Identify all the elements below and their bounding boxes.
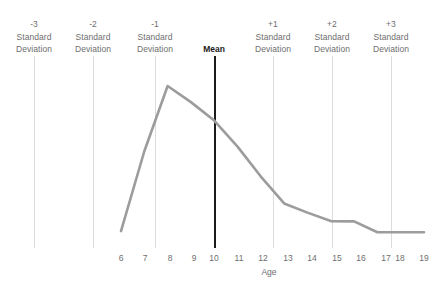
distribution-curve	[0, 0, 442, 296]
xtick-19: 19	[412, 253, 436, 263]
xtick-12: 12	[251, 253, 275, 263]
xtick-8-text: 8	[168, 253, 173, 263]
x-axis-title: Age	[209, 267, 329, 277]
xtick-7-text: 7	[143, 253, 148, 263]
xtick-14-text: 14	[307, 253, 316, 263]
xtick-9-text: 9	[192, 253, 197, 263]
xtick-13: 13	[276, 253, 300, 263]
chart-container: -3 Standard Deviation -2 Standard Deviat…	[0, 0, 442, 296]
xtick-19-text: 19	[419, 253, 428, 263]
xtick-6: 6	[109, 253, 133, 263]
xtick-10: 10	[202, 253, 226, 263]
xtick-16: 16	[349, 253, 373, 263]
xtick-15-text: 15	[332, 253, 341, 263]
xtick-11: 11	[227, 253, 251, 263]
xtick-8: 8	[158, 253, 182, 263]
xtick-13-text: 13	[283, 253, 292, 263]
xtick-16-text: 16	[356, 253, 365, 263]
xtick-15: 15	[325, 253, 349, 263]
xtick-14: 14	[300, 253, 324, 263]
xtick-6-text: 6	[119, 253, 124, 263]
xtick-18-text: 18	[395, 253, 404, 263]
xtick-11-text: 11	[235, 253, 244, 263]
xtick-10-text: 10	[209, 253, 218, 263]
xtick-12-text: 12	[258, 253, 267, 263]
xtick-18: 18	[388, 253, 412, 263]
x-axis-title-text: Age	[261, 267, 276, 277]
xtick-7: 7	[133, 253, 157, 263]
